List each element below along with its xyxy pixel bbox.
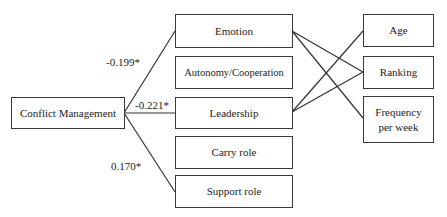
node-label-line2: per week [378, 120, 418, 135]
node-label: Autonomy/Cooperation [184, 65, 284, 80]
node-label: Emotion [215, 24, 253, 39]
edge-conflict-support [124, 113, 175, 192]
coefficient-leadership: -0.221* [135, 99, 169, 111]
node-label: Leadership [210, 106, 259, 121]
carry-role-node: Carry role [175, 136, 293, 169]
leadership-node: Leadership [175, 97, 293, 129]
coefficient-support: 0.170* [111, 160, 141, 172]
autonomy-cooperation-node: Autonomy/Cooperation [175, 56, 293, 89]
support-role-node: Support role [175, 175, 293, 208]
coefficient-emotion: -0.199* [106, 56, 140, 68]
edge-emotion-ranking [292, 31, 363, 72]
node-label: Age [389, 23, 407, 38]
node-label: Ranking [380, 65, 417, 80]
age-node: Age [363, 14, 434, 47]
node-label: Support role [207, 184, 262, 199]
node-label: Carry role [212, 145, 257, 160]
node-label-line1: Frequency [375, 105, 421, 120]
edge-leadership-ranking [292, 72, 363, 112]
emotion-node: Emotion [175, 14, 293, 48]
node-label: Conflict Management [20, 106, 116, 121]
ranking-node: Ranking [363, 56, 434, 89]
conflict-management-node: Conflict Management [11, 97, 125, 129]
frequency-per-week-node: Frequency per week [363, 96, 434, 143]
